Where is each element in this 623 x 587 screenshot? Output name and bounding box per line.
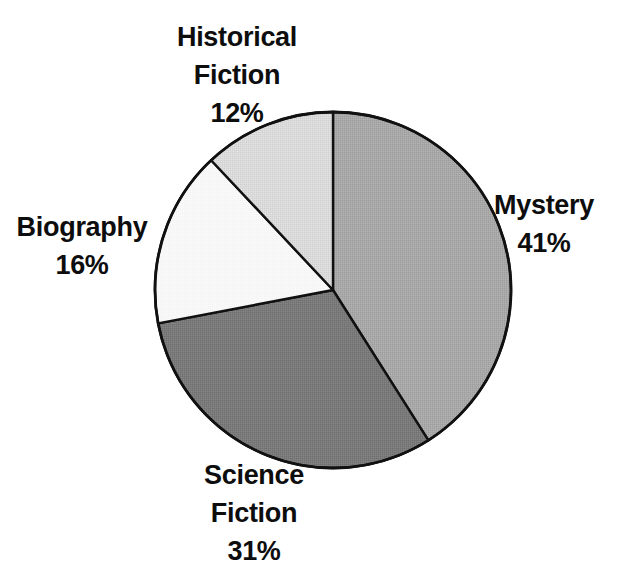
pie-value-historical-fiction: 12%: [142, 94, 332, 132]
pie-label-science-fiction-line1: Science: [164, 456, 344, 494]
pie-slices: [155, 112, 511, 468]
pie-label-mystery: Mystery 41%: [466, 186, 622, 262]
pie-label-mystery-line1: Mystery: [466, 186, 622, 224]
pie-label-biography: Biography 16%: [2, 208, 162, 284]
pie-label-historical-fiction: Historical Fiction 12%: [142, 18, 332, 132]
pie-label-science-fiction: Science Fiction 31%: [164, 456, 344, 570]
pie-label-historical-fiction-line1: Historical: [142, 18, 332, 56]
pie-label-science-fiction-line2: Fiction: [164, 494, 344, 532]
pie-value-science-fiction: 31%: [164, 532, 344, 570]
pie-label-biography-line1: Biography: [2, 208, 162, 246]
pie-label-historical-fiction-line2: Fiction: [142, 56, 332, 94]
pie-value-biography: 16%: [2, 246, 162, 284]
pie-value-mystery: 41%: [466, 224, 622, 262]
pie-chart: Historical Fiction 12% Biography 16% Mys…: [0, 0, 623, 587]
